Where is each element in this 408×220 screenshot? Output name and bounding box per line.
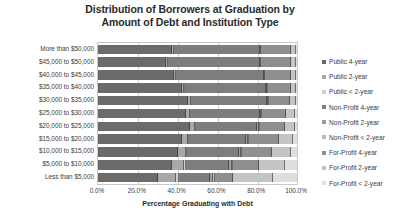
- bar-segment: [296, 70, 297, 79]
- legend-label: Public < 2-year: [329, 85, 373, 98]
- bar-segment: [98, 45, 172, 54]
- x-axis-tick-label: 40.0%: [157, 187, 197, 195]
- bar-segment: [98, 70, 174, 79]
- bar-segment: [261, 57, 291, 66]
- bar-segment: [295, 109, 297, 118]
- bar-segment: [285, 122, 295, 131]
- bar-segment: [98, 96, 188, 105]
- y-axis-label: More than $50,000: [0, 45, 94, 52]
- bar-row: [98, 109, 297, 118]
- bar-row: [98, 122, 297, 131]
- bar-segment: [196, 122, 258, 131]
- legend-item[interactable]: Public 4-year: [322, 55, 408, 70]
- bar-segment: [191, 96, 267, 105]
- bar-row: [98, 134, 297, 143]
- legend-swatch-icon: [322, 135, 326, 139]
- y-axis-label: $35,000 to $40,000: [0, 83, 94, 90]
- y-axis-label: $5,000 to $10,000: [0, 160, 94, 167]
- bar-segment: [233, 173, 273, 182]
- bar-segment: [98, 134, 182, 143]
- legend-item[interactable]: Non-Profit 4-year: [322, 101, 408, 116]
- chart-title-line-2: Amount of Debt and Institution Type: [40, 16, 340, 29]
- chart-legend: Public 4-yearPublic 2-yearPublic < 2-yea…: [322, 55, 408, 192]
- legend-swatch-icon: [322, 90, 326, 94]
- bar-segment: [295, 122, 297, 131]
- legend-item[interactable]: Non-Profit < 2-year: [322, 131, 408, 146]
- chart-title-line-1: Distribution of Borrowers at Graduation …: [40, 3, 340, 16]
- bar-segment: [233, 160, 259, 169]
- bar-segment: [172, 160, 184, 169]
- chart-title: Distribution of Borrowers at Graduation …: [40, 3, 340, 28]
- legend-swatch-icon: [322, 151, 326, 155]
- bar-segment: [265, 70, 291, 79]
- x-axis-tick-label: 60.0%: [196, 187, 236, 195]
- bar-row: [98, 45, 297, 54]
- legend-label: For-Profit < 2-year: [329, 177, 383, 190]
- bar-segment: [98, 122, 190, 131]
- bar-row: [98, 70, 297, 79]
- legend-swatch-icon: [322, 166, 326, 170]
- legend-label: Non-Profit 2-year: [329, 116, 379, 129]
- bar-segment: [296, 83, 297, 92]
- bar-segment: [261, 45, 291, 54]
- bar-segment: [296, 57, 297, 66]
- legend-item[interactable]: Public < 2-year: [322, 85, 408, 100]
- bar-segment: [291, 147, 297, 156]
- y-axis-label: $25,000 to $30,000: [0, 109, 94, 116]
- bar-segment: [179, 173, 211, 182]
- bar-row: [98, 96, 297, 105]
- bar-segment: [296, 96, 297, 105]
- y-axis-label: Less than $5,000: [0, 173, 94, 180]
- bar-row: [98, 147, 297, 156]
- legend-label: Public 4-year: [329, 55, 367, 68]
- bar-segment: [279, 134, 293, 143]
- bar-segment: [249, 134, 279, 143]
- legend-item[interactable]: Public 2-year: [322, 70, 408, 85]
- legend-swatch-icon: [322, 75, 326, 79]
- bar-segment: [98, 147, 178, 156]
- legend-item[interactable]: For-Profit 4-year: [322, 146, 408, 161]
- bar-segment: [268, 83, 291, 92]
- legend-item[interactable]: Non-Profit 2-year: [322, 116, 408, 131]
- bar-segment: [185, 83, 267, 92]
- legend-item[interactable]: For-Profit < 2-year: [322, 177, 408, 192]
- bar-segment: [187, 147, 239, 156]
- bar-segment: [98, 160, 172, 169]
- stacked-bars-layer: [98, 43, 297, 184]
- bar-segment: [272, 147, 291, 156]
- bar-segment: [259, 160, 285, 169]
- bar-row: [98, 160, 297, 169]
- bar-row: [98, 173, 297, 182]
- x-axis-tick-label: 0.0%: [77, 187, 117, 195]
- bar-row: [98, 83, 297, 92]
- bar-segment: [286, 109, 295, 118]
- bar-segment: [189, 134, 247, 143]
- bar-segment: [98, 109, 186, 118]
- bar-segment: [262, 109, 286, 118]
- bar-segment: [98, 83, 182, 92]
- bar-segment: [98, 173, 158, 182]
- y-axis-label: $45,000 to $50,000: [0, 58, 94, 65]
- bar-segment: [273, 173, 297, 182]
- legend-item[interactable]: For-Profit 2-year: [322, 161, 408, 176]
- x-axis-tick-label: 80.0%: [236, 187, 276, 195]
- chart-container: Distribution of Borrowers at Graduation …: [0, 0, 408, 220]
- y-axis-category-labels: More than $50,000$45,000 to $50,000$40,0…: [0, 42, 94, 185]
- bar-segment: [296, 45, 297, 54]
- legend-label: Non-Profit 4-year: [329, 101, 379, 114]
- x-axis-tick-label: 100.0%: [276, 187, 316, 195]
- y-axis-label: $15,000 to $20,000: [0, 135, 94, 142]
- x-axis-tick-label: 20.0%: [117, 187, 157, 195]
- legend-swatch-icon: [322, 60, 326, 64]
- legend-label: For-Profit 4-year: [329, 146, 377, 159]
- bar-segment: [190, 109, 260, 118]
- legend-label: Non-Profit < 2-year: [329, 131, 385, 144]
- y-axis-label: $20,000 to $25,000: [0, 122, 94, 129]
- bar-row: [98, 57, 297, 66]
- bar-segment: [176, 70, 264, 79]
- bar-segment: [158, 173, 176, 182]
- bar-segment: [98, 57, 166, 66]
- legend-swatch-icon: [322, 105, 326, 109]
- bar-segment: [168, 57, 260, 66]
- y-axis-label: $30,000 to $35,000: [0, 96, 94, 103]
